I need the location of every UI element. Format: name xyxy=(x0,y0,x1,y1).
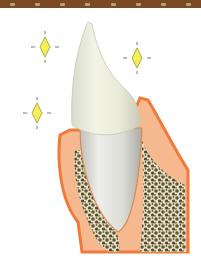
sparkle-icon xyxy=(31,31,59,63)
tooth-illustration xyxy=(0,0,201,271)
sparkle-icon xyxy=(123,42,151,74)
tooth-crown xyxy=(72,22,140,135)
sparkle-icon xyxy=(23,97,51,129)
